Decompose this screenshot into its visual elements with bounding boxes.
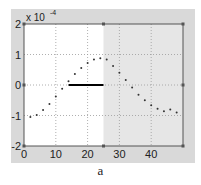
y-exponent-power: -4 — [50, 9, 56, 16]
y-tick-label: 1 — [15, 49, 21, 61]
figure: 010203040-2-1012x 10-4 a — [0, 0, 201, 185]
data-point — [29, 116, 31, 118]
data-point — [118, 72, 120, 74]
data-point — [55, 96, 57, 98]
edge-marker — [102, 23, 105, 26]
edge-marker — [23, 145, 26, 148]
y-tick-label: 2 — [15, 18, 21, 30]
x-tick-label: 20 — [81, 148, 93, 160]
x-tick-label: 10 — [50, 148, 62, 160]
x-tick-label: 40 — [145, 148, 157, 160]
data-point — [99, 57, 101, 59]
figure-caption: a — [0, 163, 201, 179]
data-point — [176, 111, 178, 113]
data-point — [87, 62, 89, 64]
edge-marker — [23, 84, 26, 87]
x-tick-label: 0 — [21, 148, 27, 160]
data-point — [106, 58, 108, 60]
data-point — [74, 73, 76, 75]
edge-marker — [182, 23, 185, 26]
edge-marker — [182, 145, 185, 148]
y-tick-label: -1 — [11, 110, 21, 122]
x-tick-label: 30 — [113, 148, 125, 160]
edge-marker — [102, 145, 105, 148]
y-tick-label: 0 — [15, 79, 21, 91]
data-point — [144, 99, 146, 101]
data-point — [137, 94, 139, 96]
data-point — [61, 88, 63, 90]
data-point — [48, 103, 50, 105]
data-point — [169, 108, 171, 110]
data-point — [125, 79, 127, 81]
data-point — [80, 67, 82, 69]
data-point — [42, 109, 44, 111]
data-point — [68, 80, 70, 82]
data-point — [36, 114, 38, 116]
data-point — [157, 108, 159, 110]
data-point — [163, 110, 165, 112]
chart: 010203040-2-1012x 10-4 — [0, 0, 201, 165]
y-tick-label: -2 — [11, 140, 21, 152]
edge-marker — [182, 84, 185, 87]
data-point — [112, 65, 114, 67]
data-point — [131, 86, 133, 88]
edge-marker — [23, 23, 26, 26]
data-point — [150, 104, 152, 106]
y-exponent-label: x 10 — [26, 12, 45, 23]
data-point — [93, 58, 95, 60]
